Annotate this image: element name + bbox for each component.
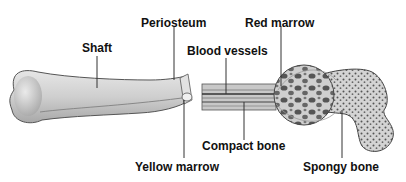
label-periosteum: Periosteum bbox=[141, 17, 206, 29]
label-spongy-bone: Spongy bone bbox=[303, 161, 379, 173]
label-shaft: Shaft bbox=[82, 42, 112, 54]
label-compact-bone: Compact bone bbox=[202, 140, 285, 152]
label-blood-vessels: Blood vessels bbox=[187, 45, 268, 57]
spongy-bone-head bbox=[274, 65, 393, 151]
bone-diagram: Shaft Periosteum Red marrow Blood vessel… bbox=[0, 0, 406, 182]
label-yellow-marrow: Yellow marrow bbox=[135, 161, 219, 173]
label-red-marrow: Red marrow bbox=[245, 17, 314, 29]
compact-bone-section bbox=[202, 84, 276, 110]
left-bone-shaft bbox=[10, 71, 192, 123]
